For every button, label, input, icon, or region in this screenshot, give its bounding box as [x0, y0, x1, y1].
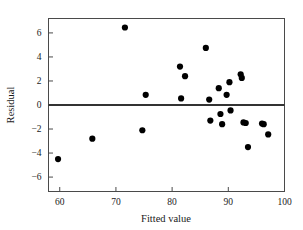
x-tick-label: 70 — [111, 197, 121, 207]
y-tick-label: 4 — [37, 52, 42, 62]
scatter-point — [207, 118, 213, 124]
scatter-point — [143, 92, 149, 98]
scatter-point — [243, 120, 249, 126]
scatter-point — [206, 96, 212, 102]
x-axis-tick-labels: 60708090100 — [55, 197, 292, 207]
x-axis-title: Fitted value — [141, 213, 191, 224]
scatter-point — [265, 131, 271, 137]
y-tick-label: −4 — [31, 148, 41, 158]
x-axis-ticks — [60, 187, 285, 192]
scatter-plot-canvas: 60708090100 6420−2−4−6 Fitted value Resi… — [0, 0, 303, 230]
scatter-point — [89, 136, 95, 142]
y-tick-label: 2 — [37, 76, 42, 86]
scatter-point — [224, 92, 230, 98]
y-axis-title: Residual — [5, 87, 16, 124]
x-tick-label: 100 — [277, 197, 292, 207]
y-axis-tick-labels: 6420−2−4−6 — [31, 28, 41, 182]
scatter-point — [227, 107, 233, 113]
y-tick-label: 0 — [37, 100, 42, 110]
scatter-point — [178, 95, 184, 101]
scatter-point — [217, 111, 223, 117]
scatter-point — [177, 63, 183, 69]
scatter-point — [226, 79, 232, 85]
scatter-point — [216, 85, 222, 91]
x-tick-label: 60 — [55, 197, 65, 207]
y-tick-label: 6 — [37, 28, 42, 38]
y-tick-label: −6 — [31, 172, 41, 182]
residual-plot-figure: 60708090100 6420−2−4−6 Fitted value Resi… — [0, 0, 303, 230]
y-tick-label: −2 — [31, 124, 41, 134]
scatter-point — [203, 45, 209, 51]
scatter-point — [182, 73, 188, 79]
scatter-point — [122, 24, 128, 30]
scatter-point — [245, 144, 251, 150]
scatter-points — [55, 24, 271, 162]
scatter-point — [261, 121, 267, 127]
x-tick-label: 80 — [167, 197, 177, 207]
scatter-point — [219, 121, 225, 127]
scatter-point — [55, 156, 61, 162]
x-tick-label: 90 — [224, 197, 234, 207]
scatter-point — [139, 127, 145, 133]
scatter-point — [239, 75, 245, 81]
